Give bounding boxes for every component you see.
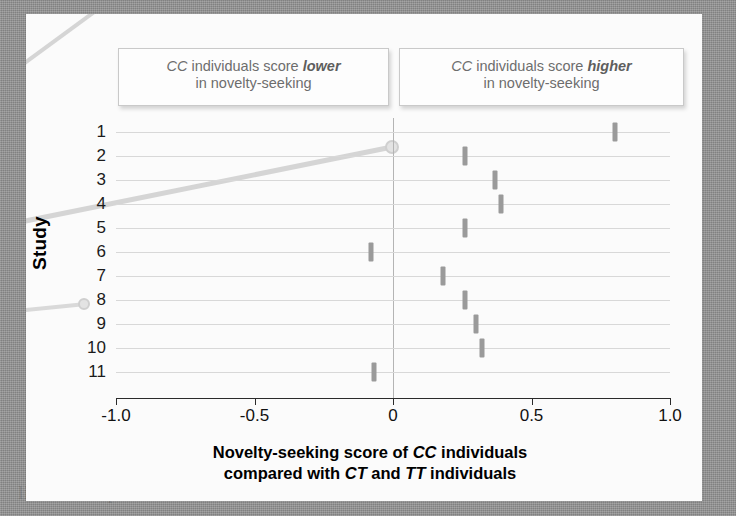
- data-marker-study-11: [371, 363, 376, 382]
- gridline: [116, 372, 670, 373]
- y-tick-label-8: 8: [97, 290, 106, 310]
- gridline: [116, 180, 670, 181]
- y-tick-label-4: 4: [97, 194, 106, 214]
- x-axis-title-line1: Novelty-seeking score of CC individuals: [60, 442, 680, 463]
- y-tick-label-5: 5: [97, 218, 106, 238]
- gridline: [116, 228, 670, 229]
- x-axis-title-genotype-cc: CC: [413, 443, 437, 461]
- y-tick-label-2: 2: [97, 146, 106, 166]
- x-axis-title-part-c: compared with: [224, 464, 345, 482]
- x-tick-label-0: 0: [388, 406, 397, 426]
- data-marker-study-6: [368, 243, 373, 262]
- gridline: [116, 348, 670, 349]
- data-marker-study-10: [479, 339, 484, 358]
- plot-area: [116, 118, 670, 398]
- gridline: [116, 156, 670, 157]
- x-axis-title-genotype-tt: TT: [405, 464, 425, 482]
- data-marker-study-7: [440, 267, 445, 286]
- x-tick-label-0.5: 0.5: [520, 406, 544, 426]
- y-tick-label-9: 9: [97, 314, 106, 334]
- x-tick-1.0: [670, 398, 671, 405]
- y-tick-label-7: 7: [97, 266, 106, 286]
- y-axis-title: Study: [29, 183, 51, 303]
- x-tick-label--0.5: -0.5: [240, 406, 269, 426]
- data-marker-study-4: [499, 195, 504, 214]
- callout-lower: CC individuals score lower in novelty-se…: [118, 48, 389, 106]
- x-axis-title-genotype-ct: CT: [345, 464, 367, 482]
- data-marker-study-9: [474, 315, 479, 334]
- x-axis-title-part-a: Novelty-seeking score of: [213, 443, 413, 461]
- x-axis-title: Novelty-seeking score of CC individuals …: [60, 442, 680, 484]
- gridline: [116, 324, 670, 325]
- data-marker-study-3: [493, 171, 498, 190]
- x-tick-label--1.0: -1.0: [101, 406, 130, 426]
- y-tick-label-3: 3: [97, 170, 106, 190]
- x-tick--0.5: [255, 398, 256, 405]
- data-marker-study-8: [463, 291, 468, 310]
- callout-lower-emphasis: lower: [303, 58, 341, 74]
- data-marker-study-1: [612, 123, 617, 142]
- x-axis-title-part-d: and: [367, 464, 406, 482]
- figure-screenshot: lieve in no prenatalicing and sal risk t…: [0, 0, 736, 516]
- callout-higher-lead: individuals score: [472, 58, 587, 74]
- y-tick-label-6: 6: [97, 242, 106, 262]
- x-tick-0: [393, 398, 394, 405]
- gridline: [116, 132, 670, 133]
- x-axis-title-part-b: individuals: [436, 443, 527, 461]
- callout-higher-emphasis: higher: [587, 58, 631, 74]
- callout-lower-line1: CC individuals score lower: [119, 58, 388, 75]
- y-axis-tick-labels: 1234567891011: [52, 118, 106, 398]
- x-tick--1.0: [116, 398, 117, 405]
- x-axis-title-part-e: individuals: [425, 464, 516, 482]
- y-tick-label-11: 11: [88, 362, 106, 382]
- callout-higher-line2: in novelty-seeking: [400, 75, 683, 92]
- gridline: [116, 252, 670, 253]
- x-tick-0.5: [532, 398, 533, 405]
- callout-lower-genotype: CC: [166, 58, 187, 74]
- x-tick-label-1.0: 1.0: [658, 406, 682, 426]
- gridline: [116, 300, 670, 301]
- callout-lower-line2: in novelty-seeking: [119, 75, 388, 92]
- data-marker-study-5: [463, 219, 468, 238]
- callout-higher-genotype: CC: [451, 58, 472, 74]
- zero-reference-line: [393, 118, 394, 398]
- gridline: [116, 204, 670, 205]
- callout-higher: CC individuals score higher in novelty-s…: [399, 48, 684, 106]
- data-marker-study-2: [463, 147, 468, 166]
- gridline: [116, 276, 670, 277]
- callout-lower-lead: individuals score: [187, 58, 302, 74]
- y-tick-label-1: 1: [97, 122, 106, 142]
- y-tick-label-10: 10: [87, 338, 106, 358]
- x-axis-title-line2: compared with CT and TT individuals: [60, 463, 680, 484]
- callout-higher-line1: CC individuals score higher: [400, 58, 683, 75]
